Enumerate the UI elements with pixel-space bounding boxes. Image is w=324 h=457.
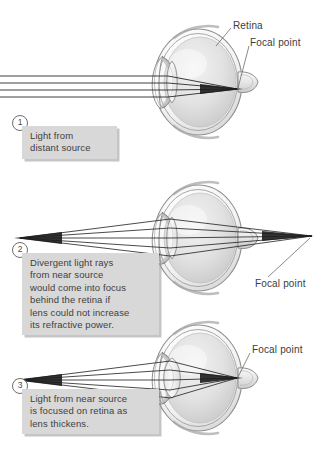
retina-label: Retina bbox=[233, 20, 263, 31]
caption-panel-3: Light from near source is focused on ret… bbox=[22, 389, 159, 434]
eye-accommodation-figure: Retina Focal point 1 Light from distant … bbox=[0, 0, 324, 457]
focal-point-label-panel-2: Focal point bbox=[255, 278, 306, 289]
caption-panel-1: Light from distant source bbox=[22, 126, 117, 159]
focal-point-label-panel-1: Focal point bbox=[250, 37, 301, 48]
focal-point-label-panel-3: Focal point bbox=[252, 344, 303, 355]
panel-near-source-accommodated bbox=[0, 315, 324, 457]
